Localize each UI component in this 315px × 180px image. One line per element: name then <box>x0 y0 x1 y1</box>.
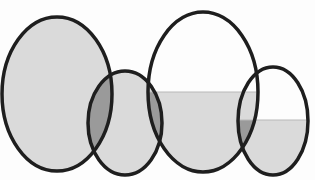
ellipse-fills <box>0 0 315 180</box>
diagram-canvas <box>0 0 315 180</box>
ellipse-diagram <box>0 0 315 180</box>
